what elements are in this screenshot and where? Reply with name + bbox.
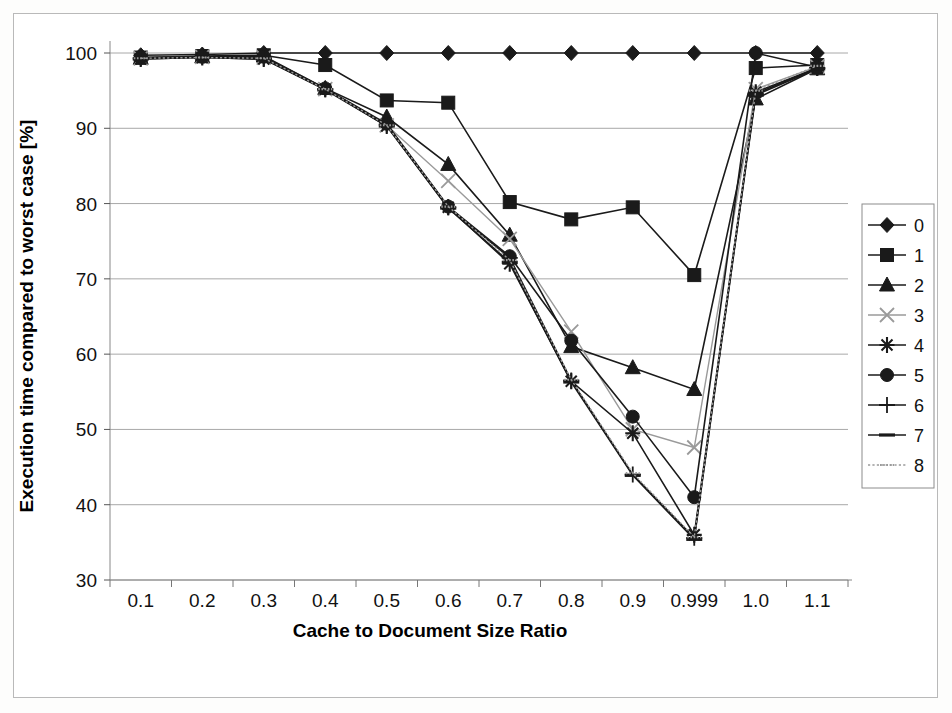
series-layer [133, 46, 826, 546]
y-tick-label: 90 [76, 118, 97, 139]
data-point-square [565, 213, 578, 226]
line-chart: 10090807060504030 0.10.20.30.40.50.60.70… [0, 0, 952, 713]
data-point-square [688, 269, 701, 282]
y-tick-label: 100 [65, 43, 97, 64]
data-point-triangle [441, 156, 456, 170]
y-axis-tick-labels: 10090807060504030 [65, 43, 97, 591]
legend-label-0: 0 [914, 216, 924, 236]
data-point-square [503, 196, 516, 209]
series-line-1 [141, 55, 818, 275]
y-tick-label: 30 [76, 570, 97, 591]
x-tick-label: 0.4 [312, 590, 339, 611]
x-tick-label: 0.6 [435, 590, 461, 611]
data-point-star [625, 425, 640, 441]
series-line-7 [141, 58, 818, 540]
legend-label-8: 8 [914, 456, 924, 476]
series-5 [134, 47, 824, 504]
legend-label-1: 1 [914, 246, 924, 266]
data-point-diamond [503, 46, 517, 61]
x-tick-label: 0.7 [497, 590, 523, 611]
y-tick-label: 70 [76, 269, 97, 290]
data-point-square [881, 249, 894, 262]
series-line-4 [141, 58, 818, 535]
legend-label-5: 5 [914, 366, 924, 386]
series-0 [134, 46, 825, 63]
series-3 [134, 50, 825, 455]
x-tick-label: 0.999 [670, 590, 718, 611]
data-point-square [626, 201, 639, 214]
y-tick-label: 40 [76, 495, 97, 516]
data-point-diamond [626, 46, 640, 61]
data-point-diamond [564, 46, 578, 61]
x-tick-label: 0.2 [189, 590, 215, 611]
data-point-circle [749, 47, 762, 60]
legend-label-2: 2 [914, 276, 924, 296]
x-tick-label: 1.1 [804, 590, 830, 611]
y-tick-label: 50 [76, 419, 97, 440]
x-tick-label: 1.0 [743, 590, 769, 611]
legend-label-3: 3 [914, 306, 924, 326]
legend-label-4: 4 [914, 336, 924, 356]
data-point-star [880, 337, 895, 353]
x-tick-label: 0.9 [620, 590, 646, 611]
series-line-5 [141, 53, 818, 497]
x-axis-title: Cache to Document Size Ratio [293, 620, 568, 641]
data-point-triangle [687, 382, 702, 396]
y-tick-label: 60 [76, 344, 97, 365]
data-point-circle [626, 410, 639, 423]
x-tick-label: 0.3 [251, 590, 277, 611]
data-point-square [380, 94, 393, 107]
x-axis-ticks [110, 580, 848, 587]
x-tick-label: 0.1 [128, 590, 154, 611]
data-point-diamond [441, 46, 455, 61]
data-point-x-thin [687, 440, 701, 454]
data-point-circle [565, 334, 578, 347]
scanned-page: 10090807060504030 0.10.20.30.40.50.60.70… [0, 0, 952, 713]
data-point-square [319, 59, 332, 72]
legend: 012345678 [862, 204, 934, 488]
data-point-x-thin [441, 174, 455, 188]
x-tick-label: 0.8 [558, 590, 584, 611]
data-point-square [749, 62, 762, 75]
series-line-6 [141, 57, 818, 538]
y-tick-label: 80 [76, 194, 97, 215]
legend-label-7: 7 [914, 426, 924, 446]
series-line-8 [141, 58, 818, 538]
series-1 [134, 49, 824, 282]
legend-label-6: 6 [914, 396, 924, 416]
data-point-square [442, 96, 455, 109]
x-tick-label: 0.5 [374, 590, 400, 611]
series-4 [133, 50, 825, 543]
data-point-diamond [687, 46, 701, 61]
data-point-diamond [380, 46, 394, 61]
data-point-circle [881, 369, 894, 382]
x-axis-tick-labels: 0.10.20.30.40.50.60.70.80.90.9991.01.1 [128, 590, 831, 611]
y-axis-title: Execution time compared to worst case [%… [16, 120, 37, 513]
